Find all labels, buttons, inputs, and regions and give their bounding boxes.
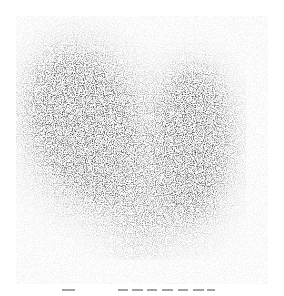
caption-fragment [207, 289, 215, 291]
isthmus [117, 170, 173, 230]
caption-fragment [162, 289, 173, 291]
scan-image [16, 16, 268, 284]
caption-fragment [178, 289, 188, 291]
caption-fragment [193, 289, 204, 291]
caption-fragment [118, 289, 128, 291]
caption-fragment [147, 289, 157, 291]
scan-graphic [16, 16, 268, 284]
figure-caption [0, 289, 284, 296]
caption-fragment [62, 289, 75, 291]
caption-fragment [132, 289, 143, 291]
